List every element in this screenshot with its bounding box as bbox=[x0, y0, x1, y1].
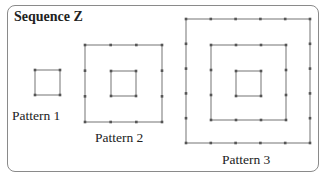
joint-dot bbox=[284, 18, 287, 21]
joint-dot bbox=[210, 142, 213, 145]
joint-dot bbox=[109, 44, 112, 47]
joint-dot bbox=[84, 44, 87, 47]
pattern-canvas bbox=[0, 0, 325, 181]
joint-dot bbox=[285, 69, 288, 72]
joint-dot bbox=[210, 94, 213, 97]
joint-dot bbox=[135, 95, 138, 98]
joint-dot bbox=[185, 117, 188, 120]
joint-dot bbox=[59, 94, 62, 97]
joint-dot bbox=[210, 69, 213, 72]
segment-square bbox=[35, 70, 60, 95]
joint-dot bbox=[135, 70, 138, 73]
segment-square bbox=[211, 45, 286, 120]
joint-dot bbox=[235, 44, 238, 47]
joint-dot bbox=[185, 18, 188, 21]
segment-square bbox=[186, 19, 310, 143]
joint-dot bbox=[259, 18, 262, 21]
segment-square bbox=[111, 71, 136, 96]
pattern-2-label: Pattern 2 bbox=[95, 130, 143, 146]
joint-dot bbox=[110, 70, 113, 73]
joint-dot bbox=[285, 44, 288, 47]
joint-dot bbox=[284, 142, 287, 145]
joint-dot bbox=[185, 92, 188, 95]
joint-dot bbox=[234, 18, 237, 21]
joint-dot bbox=[135, 44, 138, 47]
joint-dot bbox=[84, 95, 87, 98]
joint-dot bbox=[260, 119, 263, 122]
joint-dot bbox=[285, 119, 288, 122]
joint-dot bbox=[185, 67, 188, 70]
joint-dot bbox=[309, 18, 312, 21]
joint-dot bbox=[235, 95, 238, 98]
segment-square bbox=[236, 71, 261, 96]
segment-square bbox=[85, 45, 162, 122]
joint-dot bbox=[285, 94, 288, 97]
joint-dot bbox=[234, 142, 237, 145]
joint-dot bbox=[84, 121, 87, 124]
joint-dot bbox=[84, 69, 87, 72]
joint-dot bbox=[185, 43, 188, 46]
joint-dot bbox=[259, 142, 262, 145]
joint-dot bbox=[260, 70, 263, 73]
joint-dot bbox=[309, 117, 312, 120]
joint-dot bbox=[135, 121, 138, 124]
joint-dot bbox=[161, 44, 164, 47]
joint-dot bbox=[260, 95, 263, 98]
joint-dot bbox=[309, 142, 312, 145]
pattern-3-label: Pattern 3 bbox=[222, 152, 270, 168]
joint-dot bbox=[34, 69, 37, 72]
pattern-2-figure bbox=[84, 44, 164, 124]
pattern-1-figure bbox=[34, 69, 62, 97]
joint-dot bbox=[34, 94, 37, 97]
joint-dot bbox=[185, 142, 188, 145]
joint-dot bbox=[235, 119, 238, 122]
joint-dot bbox=[235, 70, 238, 73]
joint-dot bbox=[260, 44, 263, 47]
joint-dot bbox=[309, 43, 312, 46]
joint-dot bbox=[161, 95, 164, 98]
joint-dot bbox=[59, 69, 62, 72]
joint-dot bbox=[210, 18, 213, 21]
joint-dot bbox=[161, 121, 164, 124]
joint-dot bbox=[110, 95, 113, 98]
pattern-3-figure bbox=[185, 18, 312, 145]
joint-dot bbox=[161, 69, 164, 72]
joint-dot bbox=[109, 121, 112, 124]
joint-dot bbox=[309, 92, 312, 95]
pattern-1-label: Pattern 1 bbox=[12, 108, 60, 124]
joint-dot bbox=[309, 67, 312, 70]
joint-dot bbox=[210, 44, 213, 47]
joint-dot bbox=[210, 119, 213, 122]
